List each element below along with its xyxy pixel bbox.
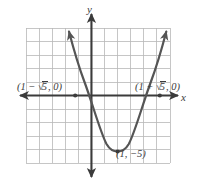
left-intercept-point [73, 93, 77, 97]
y-axis-label: y [87, 4, 92, 15]
left-intercept-prefix: (1 − [17, 81, 38, 92]
axes [20, 14, 178, 177]
right-intercept-prefix: (1 + [135, 81, 156, 92]
left-intercept-label: (1 − √5, 0) [17, 81, 62, 93]
right-intercept-suffix: , 0) [166, 81, 180, 92]
left-intercept-suffix: , 0) [48, 81, 62, 92]
right-intercept-label: (1 + √5, 0) [135, 81, 180, 93]
vertex-label: (1, −5) [116, 149, 146, 160]
x-axis-label: x [181, 92, 186, 103]
right-intercept-point [158, 93, 162, 97]
graph-figure: (1 − √5, 0) (1 + √5, 0) (1, −5) y x [0, 0, 202, 181]
